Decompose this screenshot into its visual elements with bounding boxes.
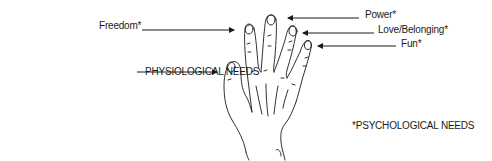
palm-edge [281,102,296,160]
middle-nail [267,15,275,25]
thumb-nail [227,62,235,72]
ring-finger [274,26,296,78]
little-nail [305,41,312,50]
index-nail [245,24,253,34]
wrist-crease [276,149,281,156]
tendon [266,84,268,116]
arrows [137,18,396,72]
tendon [256,86,262,114]
hand-illustration [0,0,492,161]
tendon [274,86,278,114]
tendon [283,90,288,108]
joint-creases [228,35,308,80]
wrist-left [246,152,249,160]
hand-outline [224,15,312,160]
knuckle-marks [251,70,295,85]
